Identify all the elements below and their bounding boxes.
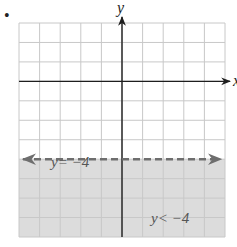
x-axis-label: x — [232, 72, 237, 89]
inequality-label: y< −4 — [149, 210, 190, 226]
bullet-marker: • — [4, 7, 10, 24]
graph-canvas: •xyy= −4y< −4 — [0, 0, 237, 247]
boundary-equation-label: y= −4 — [49, 154, 90, 170]
y-axis-label: y — [115, 0, 125, 17]
inequality-graph: •xyy= −4y< −4 — [0, 0, 237, 247]
